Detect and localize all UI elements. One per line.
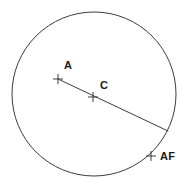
chord-line: [58, 79, 168, 131]
point-af-marker: [146, 151, 156, 161]
point-af-label: AF: [160, 151, 175, 162]
point-a-label: A: [64, 60, 72, 71]
point-a-marker: [53, 74, 63, 84]
point-c-label: C: [100, 80, 108, 91]
geometry-figure: A C AF: [0, 0, 190, 190]
